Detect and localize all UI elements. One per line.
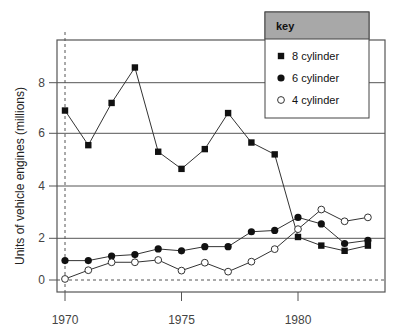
data-point [318,206,325,213]
data-point [132,259,139,266]
data-point [178,166,184,172]
legend-entry-label: 4 cylinder [292,94,339,106]
data-point [225,243,232,250]
x-tick-label: 1975 [168,313,195,327]
x-tick-label: 1980 [285,313,312,327]
legend-entry-label: 8 cylinder [292,50,339,62]
data-point [85,267,92,274]
legend: key8 cylinder6 cylinder4 cylinder [265,12,369,118]
data-point [225,110,231,116]
data-point [294,214,301,221]
y-tick-label: 2 [38,231,45,245]
data-point [131,251,138,258]
data-point [155,257,162,264]
data-point [201,259,208,266]
data-point [202,146,208,152]
data-point [295,226,302,233]
data-point [62,276,69,283]
data-point [85,257,92,264]
data-point [108,100,114,106]
data-point [248,258,255,265]
data-point [272,151,278,157]
legend-marker-icon [278,97,285,104]
data-point [295,234,301,240]
y-tick-label: 8 [38,76,45,90]
y-tick-label: 0 [38,273,45,287]
data-point [318,220,325,227]
data-point [364,237,371,244]
legend-marker-icon [278,53,284,59]
legend-entry-label: 6 cylinder [292,72,339,84]
data-point [225,268,232,275]
legend-title: key [276,20,295,32]
data-point [341,248,347,254]
data-point [201,243,208,250]
y-tick-label: 6 [38,126,45,140]
y-tick-label: 4 [38,179,45,193]
data-point [155,149,161,155]
data-point [178,247,185,254]
data-point [271,246,278,253]
data-point [341,218,348,225]
data-point [155,245,162,252]
data-point [178,267,185,274]
legend-marker-icon [277,74,284,81]
data-point [85,142,91,148]
data-point [248,228,255,235]
series-6-cylinder [61,214,371,264]
y-axis-title: Units of vehicle engines (millions) [13,87,27,265]
series-4-cylinder [62,206,372,282]
data-point [318,242,324,248]
line-chart: Units of vehicle engines (millions) 0246… [0,0,398,334]
data-point [61,257,68,264]
data-point [341,240,348,247]
data-point [248,139,254,145]
x-tick-label: 1970 [52,313,79,327]
data-point [62,107,68,113]
data-point [365,214,372,221]
data-point [271,227,278,234]
data-point [132,64,138,70]
data-point [108,259,115,266]
